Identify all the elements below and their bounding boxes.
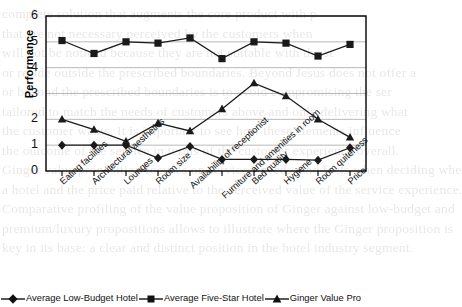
plot-area	[0, 0, 368, 200]
legend-label: Average Low-Budget Hotel	[26, 292, 138, 303]
data-point-marker	[58, 141, 66, 150]
data-point-marker	[218, 55, 225, 62]
legend-label: Ginger Value Pro	[290, 292, 361, 303]
data-point-marker	[90, 50, 97, 57]
data-point-marker	[186, 142, 194, 151]
data-point-marker	[186, 34, 193, 41]
legend-label: Average Five-Star Hotel	[164, 292, 264, 303]
data-point-marker	[346, 133, 354, 141]
legend-marker-diamond-icon	[0, 293, 26, 305]
legend-item[interactable]: Average Five-Star Hotel	[138, 292, 264, 305]
data-point-marker	[282, 40, 289, 47]
legend-marker-square-icon	[138, 293, 164, 305]
data-point-marker	[250, 38, 257, 45]
legend-item[interactable]: Ginger Value Pro	[264, 292, 361, 305]
data-point-marker	[154, 40, 161, 47]
data-point-marker	[154, 154, 162, 163]
data-point-marker	[122, 38, 129, 45]
data-point-marker	[250, 79, 258, 87]
data-point-marker	[314, 156, 322, 165]
legend-item[interactable]: Average Low-Budget Hotel	[0, 292, 138, 305]
data-point-marker	[314, 52, 321, 59]
legend-marker-triangle-icon	[264, 293, 290, 305]
data-point-marker	[218, 105, 226, 113]
chart-legend: Average Low-Budget Hotel Average Five-St…	[0, 292, 368, 307]
series-line	[62, 83, 350, 141]
data-point-marker	[346, 41, 353, 48]
data-point-marker	[58, 37, 65, 44]
series-square	[58, 34, 353, 62]
data-point-marker	[58, 115, 66, 123]
series-line	[62, 38, 350, 59]
